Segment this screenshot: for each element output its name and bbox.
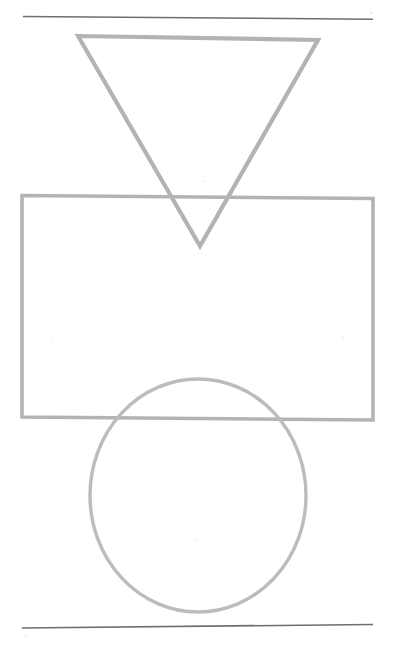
top-rule bbox=[23, 17, 373, 20]
speck-mid-upper bbox=[204, 180, 206, 182]
speck-bottom-left bbox=[25, 635, 26, 636]
speck-top-right bbox=[370, 12, 372, 14]
geometric-figure bbox=[0, 0, 397, 652]
speck-right-low bbox=[381, 487, 382, 488]
speck-mid-right bbox=[342, 337, 344, 339]
rectangle-shape bbox=[22, 196, 373, 421]
speck-left-lower bbox=[52, 338, 53, 339]
paper-specks bbox=[25, 12, 382, 637]
speck-center-low bbox=[194, 539, 195, 540]
inverted-triangle-shape bbox=[78, 36, 318, 246]
figure-canvas bbox=[0, 0, 397, 652]
bottom-rule bbox=[22, 625, 373, 629]
circle-shape bbox=[90, 379, 306, 612]
